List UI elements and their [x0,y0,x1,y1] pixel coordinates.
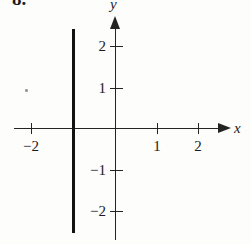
x-tick-mark [31,123,32,134]
x-tick-label: −2 [16,138,46,155]
y-axis-line [115,18,116,240]
y-tick-mark [110,46,123,47]
y-tick-label: 2 [76,38,106,55]
scan-speck-artifact [25,89,28,92]
plotted-vertical-line [72,29,75,233]
y-tick-label: −2 [76,203,106,220]
y-axis-arrow-icon [110,16,120,29]
y-tick-label: 1 [76,80,106,97]
y-tick-label: −1 [76,162,106,179]
x-tick-mark [157,123,158,134]
x-tick-mark [198,123,199,134]
x-tick-label: 2 [183,138,213,155]
x-axis-line [14,128,222,129]
x-axis-arrow-icon [218,123,231,133]
problem-number: 8. [12,0,26,8]
x-tick-label: 1 [142,138,172,155]
y-tick-mark [110,211,123,212]
y-tick-mark [110,170,123,171]
math-figure-coordinate-plane: 8. x y −2 1 2 2 1 −1 −2 [0,0,251,244]
y-tick-mark [110,88,123,89]
x-axis-label: x [234,120,241,137]
y-axis-label: y [110,0,117,13]
